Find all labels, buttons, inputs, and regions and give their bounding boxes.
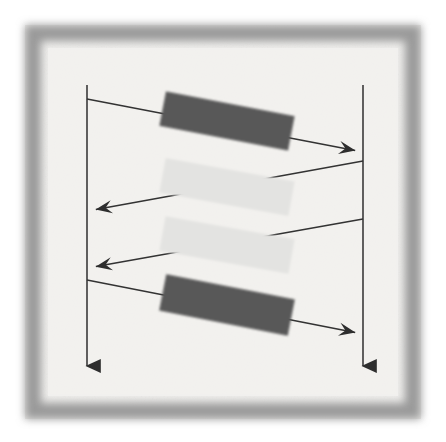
diagram-canvas bbox=[0, 0, 446, 442]
sequence-diagram-figure bbox=[0, 0, 446, 442]
